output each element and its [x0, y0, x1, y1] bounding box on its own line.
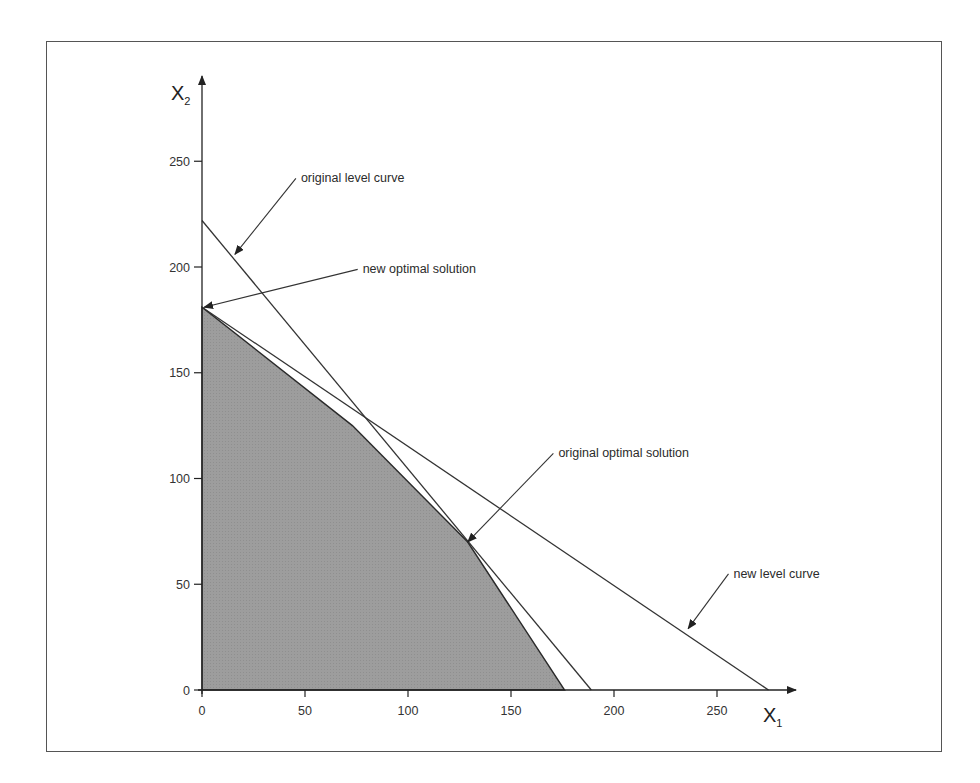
lp-sensitivity-chart: 050100150200250050100150200250 original …	[0, 0, 980, 783]
annotation-label: original optimal solution	[558, 446, 689, 460]
arrow-icon	[688, 574, 728, 629]
y-tick-label: 100	[169, 472, 190, 486]
annotation-new-optimal-solution: new optimal solution	[204, 262, 476, 307]
y-tick-label: 250	[169, 155, 190, 169]
arrow-icon	[204, 269, 358, 307]
annotation-new-level-curve: new level curve	[688, 567, 820, 629]
x-tick-label: 200	[604, 704, 625, 718]
arrow-icon	[468, 453, 554, 542]
x-tick-label: 150	[501, 704, 522, 718]
y-tick-label: 200	[169, 261, 190, 275]
y-axis-title: X2	[171, 82, 190, 107]
y-tick-label: 150	[169, 366, 190, 380]
x-tick-label: 250	[707, 704, 728, 718]
annotation-original-level-curve: original level curve	[235, 171, 404, 254]
x-tick-label: 50	[298, 704, 312, 718]
annotation-original-optimal-solution: original optimal solution	[468, 446, 689, 542]
y-tick-label: 0	[183, 684, 190, 698]
annotation-label: new level curve	[733, 567, 819, 581]
x-tick-label: 100	[398, 704, 419, 718]
annotation-label: new optimal solution	[363, 262, 476, 276]
annotation-label: original level curve	[301, 171, 405, 185]
y-tick-label: 50	[176, 578, 190, 592]
x-tick-label: 0	[199, 704, 206, 718]
arrow-icon	[235, 178, 296, 254]
x-axis-title: X1	[763, 704, 782, 729]
